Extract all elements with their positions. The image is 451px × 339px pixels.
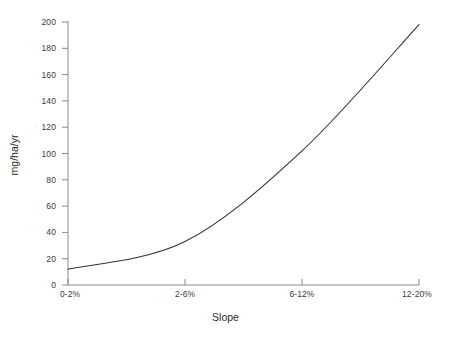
y-tick-label: 160: [34, 70, 56, 80]
y-tick-marks: [62, 22, 68, 285]
y-tick-label: 200: [34, 17, 56, 27]
y-tick-label: 120: [34, 122, 56, 132]
chart-figure: 0 20 40 60 80 100 120 140 160 180 200 0-…: [0, 0, 451, 339]
y-tick-label: 20: [34, 254, 56, 264]
y-tick-label: 100: [34, 149, 56, 159]
y-tick-label: 0: [34, 280, 56, 290]
x-tick-marks: [68, 279, 419, 285]
x-tick-label: 0-2%: [60, 289, 80, 299]
y-tick-label: 140: [34, 96, 56, 106]
y-tick-label: 40: [34, 227, 56, 237]
x-tick-label: 6-12%: [289, 289, 314, 299]
y-tick-label: 180: [34, 43, 56, 53]
x-axis-title: Slope: [0, 311, 451, 323]
y-tick-label: 60: [34, 201, 56, 211]
data-series-line: [68, 25, 419, 270]
x-tick-label: 2-6%: [175, 289, 195, 299]
y-axis-title: mg/ha/yr: [8, 135, 20, 176]
x-tick-label: 12-20%: [402, 289, 432, 299]
y-tick-label: 80: [34, 175, 56, 185]
